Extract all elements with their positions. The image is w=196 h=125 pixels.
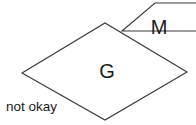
- plane-m-label: M: [151, 16, 168, 38]
- plane-g-label: G: [99, 60, 115, 82]
- caption-not-okay: not okay: [6, 99, 57, 114]
- diagram-canvas: M G not okay: [0, 0, 196, 125]
